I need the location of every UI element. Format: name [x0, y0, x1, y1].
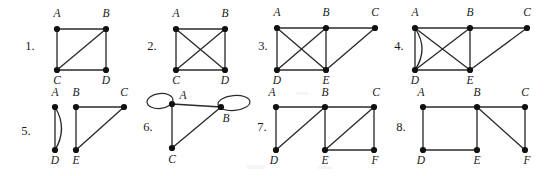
vertex-B: [323, 25, 329, 31]
vertex-C: [121, 104, 127, 110]
figure-number-4: 4.: [394, 39, 403, 53]
edge-B-C: [57, 29, 106, 70]
scan-artifact-3: [296, 92, 308, 95]
edge-A-B: [172, 104, 221, 107]
vertex-label-D: D: [220, 74, 230, 86]
vertex-label-B: B: [221, 7, 228, 19]
vertex-D: [103, 67, 109, 73]
edge-C-E: [326, 28, 375, 70]
vertex-label-C: C: [523, 6, 531, 18]
vertex-label-A: A: [178, 89, 187, 101]
figure-5: ABCDE5.: [21, 86, 128, 166]
vertex-label-C: C: [371, 6, 379, 18]
graph-figures-canvas: ABCD1.ABCD2.ABCDE3.ABCDE4.ABCDE5.ABC6.AB…: [0, 0, 558, 176]
vertex-E: [73, 147, 79, 153]
scan-artifact-1: [247, 165, 265, 169]
figure-number-8: 8.: [396, 120, 405, 134]
vertex-label-D: D: [272, 74, 282, 86]
vertex-label-E: E: [320, 154, 328, 166]
vertex-label-B: B: [222, 112, 229, 124]
vertex-label-B: B: [322, 6, 329, 18]
figure-2: ABCD2.: [147, 7, 230, 86]
vertex-label-A: A: [272, 6, 281, 18]
vertex-B: [218, 104, 224, 110]
vertex-label-E: E: [71, 154, 79, 166]
vertex-B: [474, 104, 480, 110]
figure-6: ABC6.: [143, 89, 250, 165]
vertex-label-E: E: [465, 74, 473, 86]
figure-number-3: 3.: [258, 39, 267, 53]
vertex-A: [173, 26, 179, 32]
vertex-label-B: B: [72, 86, 79, 98]
vertex-D: [52, 147, 58, 153]
edge-B-D: [276, 107, 325, 150]
figure-1: ABCD1.: [25, 7, 111, 86]
vertex-label-A: A: [52, 7, 61, 19]
scan-artifact-2: [318, 166, 332, 169]
self-loop-A: [146, 92, 173, 110]
vertex-E: [323, 67, 329, 73]
vertex-label-D: D: [410, 74, 420, 86]
edge-C-E: [325, 107, 374, 150]
vertex-label-D: D: [101, 74, 111, 86]
vertex-label-D: D: [269, 154, 279, 166]
figure-number-2: 2.: [147, 39, 156, 53]
vertex-label-C: C: [172, 74, 180, 86]
vertex-C: [524, 25, 530, 31]
figure-board: ABCD1.ABCD2.ABCDE3.ABCDE4.ABCDE5.ABC6.AB…: [0, 0, 558, 176]
vertex-label-D: D: [416, 154, 426, 166]
vertex-A: [274, 25, 280, 31]
vertex-B: [322, 104, 328, 110]
figure-number-6: 6.: [143, 120, 152, 134]
edge-C-E: [470, 28, 527, 70]
figure-7: ABCDEF7.: [257, 86, 380, 166]
edge-B-C: [172, 107, 221, 148]
vertex-C: [54, 67, 60, 73]
vertex-label-A: A: [267, 86, 276, 98]
vertex-C: [372, 25, 378, 31]
vertex-A: [420, 104, 426, 110]
vertex-A: [52, 104, 58, 110]
vertex-E: [467, 67, 473, 73]
vertex-label-C: C: [120, 86, 128, 98]
vertex-label-F: F: [370, 154, 379, 166]
vertex-label-A: A: [416, 86, 425, 98]
vertex-D: [222, 67, 228, 73]
figure-3: ABCDE3.: [258, 6, 379, 86]
vertex-label-B: B: [321, 86, 328, 98]
vertex-label-C: C: [53, 74, 61, 86]
figure-number-5: 5.: [21, 124, 30, 138]
vertex-A: [273, 104, 279, 110]
vertex-B: [73, 104, 79, 110]
edge-C-E: [76, 107, 124, 150]
vertex-C: [522, 104, 528, 110]
figure-8: ABCDEF8.: [396, 86, 531, 166]
vertex-label-C: C: [521, 86, 529, 98]
vertex-D: [273, 147, 279, 153]
vertex-label-B: B: [466, 6, 473, 18]
vertex-label-A: A: [171, 7, 180, 19]
vertex-B: [103, 26, 109, 32]
vertex-label-D: D: [50, 154, 60, 166]
vertex-E: [322, 147, 328, 153]
vertex-C: [169, 145, 175, 151]
vertex-D: [274, 67, 280, 73]
vertex-A: [54, 26, 60, 32]
vertex-F: [522, 147, 528, 153]
vertex-label-C: C: [168, 153, 176, 165]
vertex-D: [420, 147, 426, 153]
vertex-E: [474, 147, 480, 153]
vertex-label-F: F: [522, 154, 531, 166]
figure-number-1: 1.: [25, 39, 34, 53]
vertex-label-C: C: [372, 86, 380, 98]
vertex-D: [412, 67, 418, 73]
vertex-label-E: E: [472, 154, 480, 166]
vertex-F: [371, 147, 377, 153]
vertex-B: [222, 26, 228, 32]
vertex-label-A: A: [50, 86, 59, 98]
edge-A-D: [415, 28, 422, 70]
vertex-label-B: B: [473, 86, 480, 98]
vertex-label-B: B: [102, 7, 109, 19]
edge-B-F: [477, 107, 525, 150]
vertex-A: [169, 101, 175, 107]
